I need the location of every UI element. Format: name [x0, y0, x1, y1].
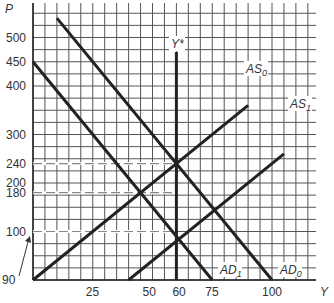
y-tick-400: 400: [6, 79, 26, 93]
x-tick-75: 75: [205, 285, 219, 299]
x-tick-100: 100: [262, 285, 282, 299]
x-tick-25: 25: [86, 285, 100, 299]
series-lines: [33, 18, 284, 280]
x-tick-60: 60: [172, 285, 186, 299]
y-tick-100: 100: [6, 225, 26, 239]
arrow-90: [19, 238, 29, 276]
x-axis-label: Y: [320, 285, 329, 299]
line-as1: [129, 154, 284, 280]
y-axis-label: P: [5, 2, 13, 16]
y-tick-200: 200: [6, 176, 26, 190]
y-tick-450: 450: [6, 55, 26, 69]
y-tick-300: 300: [6, 128, 26, 142]
y-tick-240: 240: [6, 157, 26, 171]
y-tick-90: 90: [2, 273, 16, 287]
y-tick-500: 500: [6, 31, 26, 45]
ad-as-chart: AS0AS1AD1AD0Y*10018020024030040045050090…: [0, 0, 334, 303]
label-y-star: Y*: [171, 37, 184, 51]
x-tick-50: 50: [143, 285, 157, 299]
